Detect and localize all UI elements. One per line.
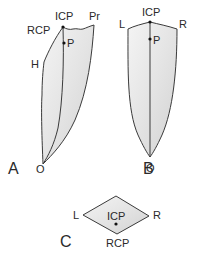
panel-b: ICP P L R O B: [119, 6, 187, 177]
panel-c: ICP RCP L R C: [60, 196, 161, 250]
panel-c-l-label: L: [73, 209, 79, 221]
panel-a-p-dot: [62, 41, 65, 44]
panel-a-p-label: P: [67, 37, 74, 49]
panel-a-o-label: O: [36, 163, 45, 175]
panel-b-icp-label: ICP: [142, 6, 160, 18]
panel-a-icp-dot: [61, 25, 64, 28]
panel-a-label: A: [8, 160, 19, 177]
panel-c-icp-label: ICP: [107, 210, 125, 222]
panel-b-label: B: [143, 160, 154, 177]
panel-b-icp-dot: [148, 20, 151, 23]
envelope-diagram: ICP P Pr RCP H O A ICP P L R O B ICP RCP…: [0, 0, 221, 255]
panel-c-r-label: R: [153, 209, 161, 221]
panel-a-icp-label: ICP: [55, 10, 73, 22]
panel-b-p-label: P: [153, 34, 160, 46]
panel-c-rcp-label: RCP: [106, 237, 129, 249]
diagram-canvas: ICP P Pr RCP H O A ICP P L R O B ICP RCP…: [0, 0, 221, 255]
panel-b-r-label: R: [179, 18, 187, 30]
panel-a-pr-label: Pr: [89, 10, 100, 22]
panel-c-icp-dot: [114, 222, 117, 225]
panel-a-rcp-label: RCP: [27, 24, 50, 36]
panel-b-l-label: L: [119, 18, 125, 30]
panel-a-h-label: H: [31, 58, 39, 70]
panel-c-label: C: [60, 233, 72, 250]
panel-a: ICP P Pr RCP H O A: [8, 10, 100, 177]
panel-b-p-dot: [148, 37, 151, 40]
